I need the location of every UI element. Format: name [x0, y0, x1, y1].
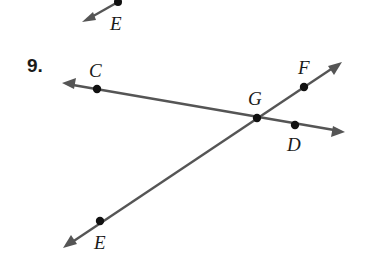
arrow-head-right-icon — [331, 126, 345, 137]
line-ef-segment — [70, 67, 335, 244]
label-f: F — [297, 57, 310, 78]
problem-number: 9. — [27, 55, 43, 76]
point-c — [93, 85, 101, 93]
geometry-diagram: E 9. C G D F E — [0, 0, 366, 256]
arrow-head-left-icon — [62, 78, 76, 89]
arrow-head-up-right-icon — [328, 62, 342, 75]
point-f — [300, 83, 308, 91]
point-e-top — [114, 0, 122, 6]
point-g — [253, 114, 261, 122]
arrow-head-down-left-icon — [63, 235, 77, 248]
label-g: G — [248, 88, 262, 109]
label-e: E — [93, 232, 106, 253]
label-d: D — [286, 134, 301, 155]
point-e — [96, 217, 104, 225]
label-e-top: E — [109, 13, 122, 34]
arrow-head-icon — [82, 12, 96, 22]
label-c: C — [89, 60, 102, 81]
point-d — [291, 121, 299, 129]
previous-problem-fragment: E — [82, 0, 122, 34]
